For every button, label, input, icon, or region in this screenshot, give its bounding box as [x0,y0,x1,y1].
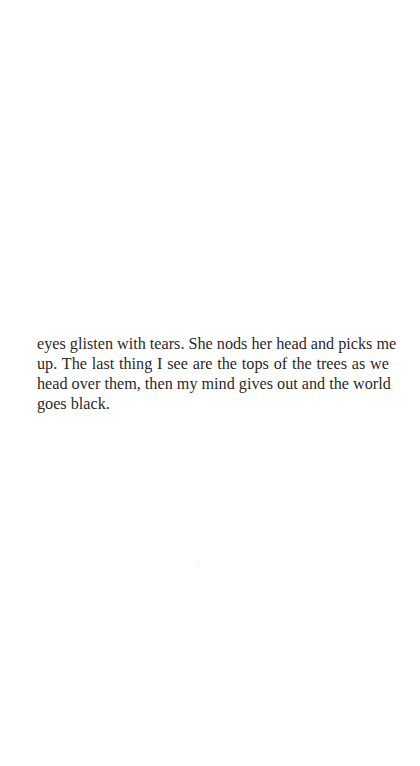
text-line: eyes glisten with tears. She nods her he… [37,334,389,354]
body-text: eyes glisten with tears. She nods her he… [37,334,389,414]
text-line: head over them, then my mind gives out a… [37,374,389,394]
paragraph: eyes glisten with tears. She nods her he… [37,334,389,414]
document-page: eyes glisten with tears. She nods her he… [0,0,420,766]
text-line: up. The last thing I see are the tops of… [37,354,389,374]
text-line: goes black. [37,394,389,414]
page-artifact [198,561,199,566]
